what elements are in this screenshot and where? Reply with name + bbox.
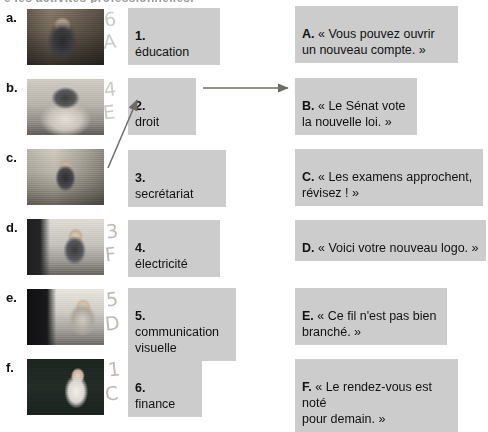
right-item-e-quote: « Ce fil n'est pas bien branché. » bbox=[302, 309, 436, 339]
middle-item-2[interactable]: 2. droit bbox=[128, 78, 196, 135]
middle-item-3-number: 3. bbox=[135, 171, 145, 185]
middle-item-5-number: 5. bbox=[135, 309, 145, 323]
middle-item-4-label: électricité bbox=[135, 257, 188, 271]
right-item-f[interactable]: F. « Le rendez-vous est noté pour demain… bbox=[295, 359, 458, 432]
photo-b-person-head-in-hands bbox=[27, 79, 104, 135]
middle-item-5-label: communication visuelle bbox=[135, 325, 219, 355]
right-item-f-quote: « Le rendez-vous est noté pour demain. » bbox=[302, 380, 432, 426]
right-item-c-quote: « Les examens approchent, révisez ! » bbox=[302, 170, 472, 200]
middle-item-1[interactable]: 1. éducation bbox=[128, 8, 220, 65]
right-item-b[interactable]: B. « Le Sénat vote la nouvelle loi. » bbox=[295, 78, 417, 135]
middle-item-4[interactable]: 4. électricité bbox=[128, 220, 220, 277]
photo-e-person-at-computer bbox=[27, 289, 104, 345]
right-item-b-letter: B. bbox=[302, 99, 315, 113]
right-item-f-letter: F. bbox=[302, 380, 312, 394]
right-item-d[interactable]: D. « Voici votre nouveau logo. » bbox=[295, 220, 486, 261]
middle-item-6-label: finance bbox=[135, 397, 175, 411]
handwritten-answer-f-letter: C bbox=[104, 381, 120, 404]
middle-item-3-label: secrétariat bbox=[135, 187, 193, 201]
right-item-d-letter: D. bbox=[302, 241, 315, 255]
row-label-c: c. bbox=[6, 150, 17, 165]
middle-item-6[interactable]: 6. finance bbox=[128, 360, 202, 417]
middle-item-3[interactable]: 3. secrétariat bbox=[128, 150, 226, 207]
handwritten-answer-a-number: 6 bbox=[103, 7, 117, 30]
right-item-d-quote: « Voici votre nouveau logo. » bbox=[318, 241, 479, 255]
handwritten-answer-e-letter: D bbox=[104, 311, 121, 334]
row-label-b: b. bbox=[6, 80, 18, 95]
row-label-e: e. bbox=[6, 290, 17, 305]
middle-item-1-number: 1. bbox=[135, 29, 145, 43]
photo-d-woman-on-phone bbox=[27, 219, 104, 275]
photo-c-woman-gesturing bbox=[27, 149, 104, 205]
handwritten-answer-b-number: 4 bbox=[103, 77, 117, 100]
row-label-a: a. bbox=[6, 10, 17, 25]
row-label-f: f. bbox=[6, 360, 14, 375]
right-item-e[interactable]: E. « Ce fil n'est pas bien branché. » bbox=[295, 288, 447, 345]
right-item-c-letter: C. bbox=[302, 170, 315, 184]
right-item-a[interactable]: A. « Vous pouvez ouvrir un nouveau compt… bbox=[295, 6, 458, 63]
middle-item-1-label: éducation bbox=[135, 45, 189, 59]
middle-item-4-number: 4. bbox=[135, 241, 145, 255]
right-item-c[interactable]: C. « Les examens approchent, révisez ! » bbox=[295, 149, 483, 206]
handwritten-answer-e-number: 5 bbox=[105, 287, 119, 310]
photo-a-man-at-desk bbox=[27, 9, 104, 65]
middle-item-6-number: 6. bbox=[135, 381, 145, 395]
handwritten-answer-d-letter: F bbox=[104, 242, 117, 265]
right-item-b-quote: « Le Sénat vote la nouvelle loi. » bbox=[302, 99, 406, 129]
middle-item-5[interactable]: 5. communication visuelle bbox=[128, 288, 236, 361]
row-label-d: d. bbox=[6, 220, 18, 235]
heading-remnant: e les activités professionnelles. bbox=[4, 0, 204, 3]
handwritten-answer-b-letter: E bbox=[102, 100, 116, 123]
handwritten-answer-a-letter: A bbox=[102, 29, 117, 52]
right-item-e-letter: E. bbox=[302, 309, 314, 323]
right-item-a-letter: A. bbox=[302, 27, 315, 41]
handwritten-answer-d-number: 3 bbox=[105, 219, 119, 242]
middle-item-2-number: 2. bbox=[135, 99, 145, 113]
right-item-a-quote: « Vous pouvez ouvrir un nouveau compte. … bbox=[302, 27, 435, 57]
handwritten-answer-f-number: 1 bbox=[107, 357, 121, 380]
photo-f-man-at-blackboard bbox=[27, 359, 104, 415]
middle-item-2-label: droit bbox=[135, 115, 159, 129]
